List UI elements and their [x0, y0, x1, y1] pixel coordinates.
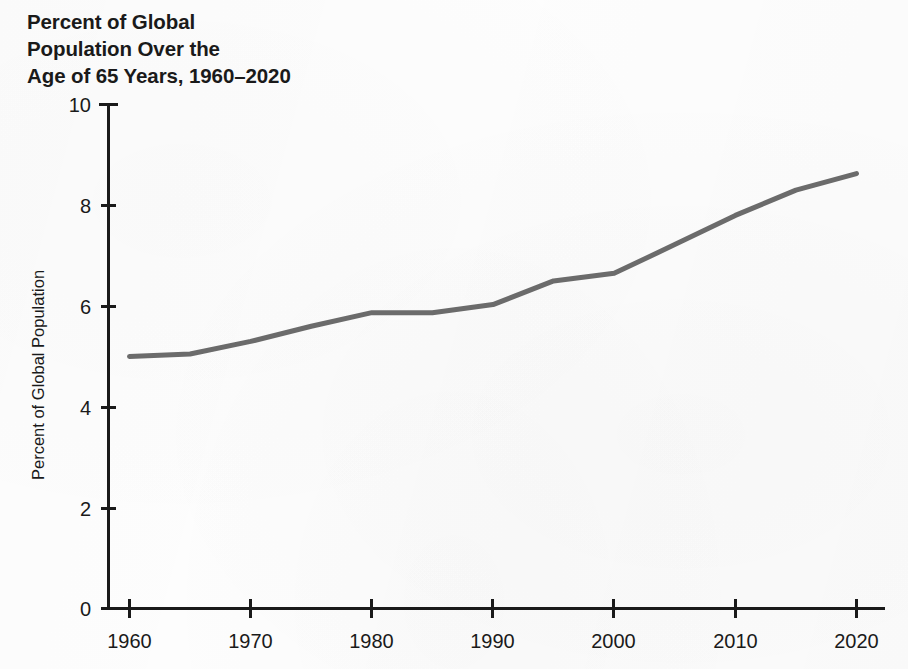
- y-tick-label-2: 2: [80, 498, 91, 520]
- axis-group: [109, 103, 886, 609]
- chart-page: Percent of GlobalPopulation Over theAge …: [0, 0, 908, 669]
- y-tick-label-0: 0: [80, 598, 91, 620]
- x-tick-label-2020: 2020: [834, 630, 879, 652]
- x-tick-label-1990: 1990: [470, 630, 515, 652]
- x-tick-labels: 1960 1970 1980 1990 2000 2010 2020: [107, 630, 879, 652]
- line-chart: 10 8 6 4 2 0 1960 1970 1980 1990 2000 20…: [0, 0, 908, 669]
- y-axis-title: Percent of Global Population: [29, 270, 47, 480]
- x-tick-label-2000: 2000: [591, 630, 636, 652]
- y-tick-label-4: 4: [80, 397, 91, 419]
- y-tick-label-10: 10: [69, 94, 91, 116]
- y-tick-labels: 10 8 6 4 2 0: [69, 94, 91, 620]
- y-tick-label-6: 6: [80, 296, 91, 318]
- data-series-line: [130, 174, 857, 357]
- x-tick-label-1970: 1970: [228, 630, 273, 652]
- x-tick-label-1960: 1960: [107, 630, 152, 652]
- y-tick-label-8: 8: [80, 195, 91, 217]
- x-tick-label-1980: 1980: [349, 630, 394, 652]
- x-tick-label-2010: 2010: [713, 630, 758, 652]
